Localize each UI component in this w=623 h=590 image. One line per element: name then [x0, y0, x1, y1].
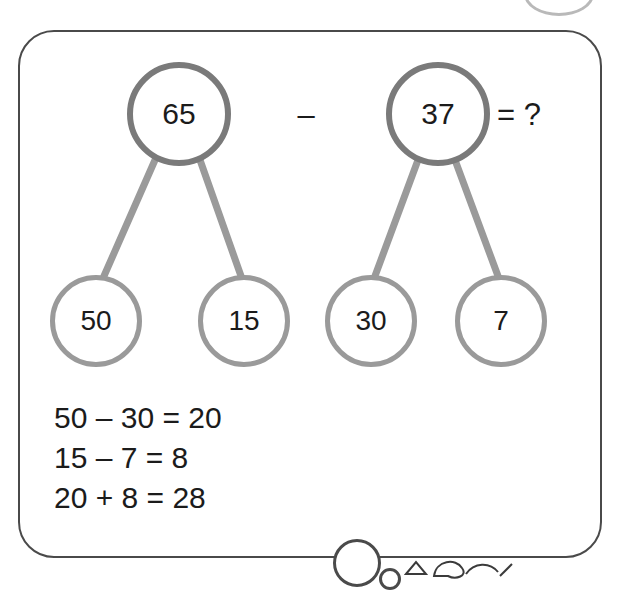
- bond-child-bubble-50: 50: [50, 275, 142, 367]
- bond-child-value-7: 7: [493, 307, 509, 335]
- bond-parent-value-left: 65: [162, 99, 195, 129]
- bond-child-bubble-30: 30: [325, 275, 417, 367]
- bond-child-value-50: 50: [80, 307, 111, 335]
- bond-parent-bubble-right: 37: [386, 62, 490, 166]
- bond-child-value-30: 30: [355, 307, 386, 335]
- decorative-doodle-bottom: [404, 556, 524, 580]
- result-equals-question: = ?: [497, 97, 541, 133]
- bond-child-value-15: 15: [228, 307, 259, 335]
- working-step-3: 20 + 8 = 28: [54, 478, 474, 518]
- bond-child-bubble-7: 7: [455, 275, 547, 367]
- bond-child-bubble-15: 15: [198, 275, 290, 367]
- working-step-2: 15 – 7 = 8: [54, 438, 474, 478]
- decorative-circle-bottom: [333, 539, 381, 587]
- decorative-circle-top-right: [524, 0, 594, 16]
- operator-minus: –: [286, 97, 326, 133]
- decorative-circle-bottom-small: [379, 568, 401, 590]
- bond-parent-bubble-left: 65: [127, 62, 231, 166]
- bond-parent-value-right: 37: [421, 99, 454, 129]
- working-steps: 50 – 30 = 20 15 – 7 = 8 20 + 8 = 28: [54, 398, 474, 518]
- working-step-1: 50 – 30 = 20: [54, 398, 474, 438]
